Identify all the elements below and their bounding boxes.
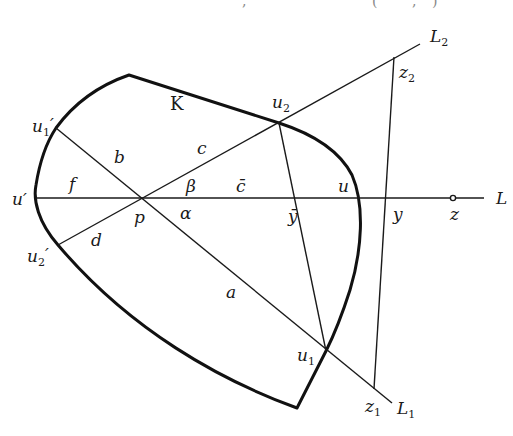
label-segment-f: f xyxy=(67,174,78,194)
label-point-u: u xyxy=(338,176,349,196)
svg-text:,: , xyxy=(242,0,246,9)
label-point-u-prime: u′ xyxy=(12,189,27,209)
label-angle-beta: β xyxy=(185,176,196,196)
label-angle-alpha: α xyxy=(180,203,192,223)
svg-text:,: , xyxy=(412,0,416,9)
diagram-canvas: , ( , ) K L2 z2 u2 u1′ b c f β c̄ u u′ L… xyxy=(0,0,513,436)
svg-text:(: ( xyxy=(372,0,377,9)
svg-text:): ) xyxy=(432,0,437,9)
label-point-z: z xyxy=(449,204,460,224)
label-point-y: y xyxy=(392,204,403,224)
label-segment-b: b xyxy=(114,147,125,167)
label-point-p: p xyxy=(134,207,145,227)
label-segment-c: c xyxy=(197,138,207,158)
line-l2 xyxy=(58,44,420,245)
label-z1: z1 xyxy=(364,396,381,419)
label-line-l: L xyxy=(495,188,507,208)
label-u1: u1 xyxy=(297,345,315,368)
label-point-y-bar: ȳ xyxy=(287,206,298,226)
label-z2: z2 xyxy=(398,62,415,85)
label-u2-prime: u2′ xyxy=(27,244,49,269)
label-segment-d: d xyxy=(91,230,102,250)
label-u2: u2 xyxy=(272,92,290,115)
cropped-header-fragments: , ( , ) xyxy=(242,0,437,9)
line-l1 xyxy=(56,128,392,403)
label-k: K xyxy=(170,93,184,114)
point-z-marker xyxy=(450,195,455,200)
label-segment-a: a xyxy=(226,282,236,302)
label-l2: L2 xyxy=(429,26,448,49)
label-segment-c-bar: c̄ xyxy=(236,176,246,196)
label-l1: L1 xyxy=(396,398,415,421)
segment-z2-z1 xyxy=(374,57,394,389)
